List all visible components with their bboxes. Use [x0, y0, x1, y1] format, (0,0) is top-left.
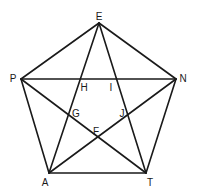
- segment-ep: [21, 23, 99, 79]
- segment-en: [99, 23, 176, 79]
- vertice-label-a: A: [42, 177, 49, 188]
- intersection-label-f: F: [93, 126, 99, 137]
- intersection-label-i: I: [110, 82, 113, 93]
- diagram-edges: [21, 23, 176, 173]
- segment-nt: [146, 79, 176, 173]
- segment-pt: [21, 79, 146, 173]
- vertice-label-n: N: [179, 73, 186, 84]
- intersection-label-j: J: [120, 108, 125, 119]
- vertice-label-p: P: [10, 73, 17, 84]
- diagram-labels: EPNATHIGJF: [10, 11, 187, 188]
- segment-na: [49, 79, 176, 173]
- vertice-label-t: T: [147, 177, 153, 188]
- segment-et: [99, 23, 146, 173]
- segment-ea: [49, 23, 99, 173]
- vertice-label-e: E: [96, 11, 103, 22]
- segment-pa: [21, 79, 49, 173]
- pentagram-diagram: EPNATHIGJF: [0, 0, 197, 196]
- intersection-label-g: G: [72, 108, 80, 119]
- intersection-label-h: H: [80, 82, 87, 93]
